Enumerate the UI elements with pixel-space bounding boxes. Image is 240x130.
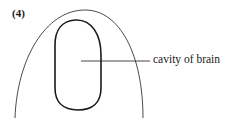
annotation-cavity-of-brain: cavity of brain xyxy=(153,53,220,65)
inner-cavity-oval xyxy=(55,20,101,110)
figure-number-label: (4) xyxy=(12,7,25,19)
diagram-canvas xyxy=(0,0,240,130)
outer-head-outline xyxy=(15,10,143,118)
